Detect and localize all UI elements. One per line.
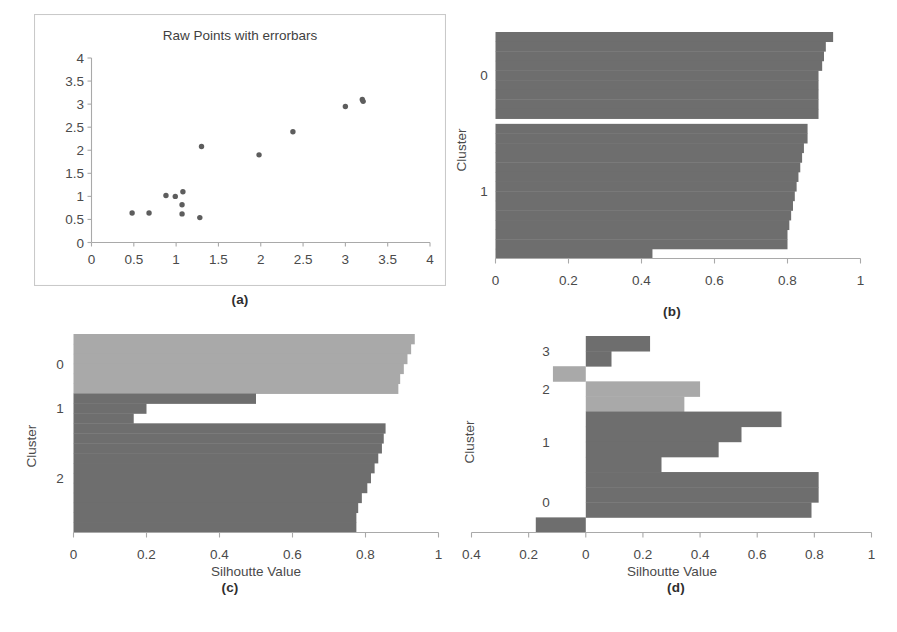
x-tick-label: 0.4 — [462, 547, 481, 562]
x-tick-label: 1 — [435, 547, 443, 562]
panel-c-xlabel: Silhoutte Value — [211, 564, 301, 579]
cluster-tick-label: 2 — [542, 382, 550, 397]
panel-a-y-tick-label: 1 — [76, 189, 84, 204]
cluster-tick-label: 1 — [480, 184, 488, 199]
silhouette-bar — [496, 162, 801, 172]
silhouette-bar — [496, 80, 819, 90]
panel-c-x-ticks: 00.20.40.60.81 — [70, 533, 443, 562]
scatter-point — [343, 104, 348, 109]
scatter-point — [197, 215, 202, 220]
x-tick-label: 0.8 — [778, 273, 797, 287]
scatter-point — [179, 211, 184, 216]
silhouette-bar — [74, 394, 257, 404]
cluster-tick-label: 1 — [56, 401, 64, 416]
silhouette-bar — [74, 334, 415, 344]
scatter-point — [256, 152, 261, 157]
silhouette-bar — [496, 133, 808, 143]
panel-b-cluster-ticks: 01 — [480, 68, 488, 199]
silhouette-bar — [74, 413, 134, 423]
silhouette-bar — [496, 99, 819, 109]
scatter-point — [129, 210, 134, 215]
silhouette-bar — [496, 32, 834, 42]
cluster-tick-label: 0 — [56, 357, 64, 372]
panel-a-caption-text: (a) — [231, 292, 248, 307]
silhouette-bar — [74, 423, 386, 433]
scatter-point — [173, 194, 178, 199]
panel-d-bars — [536, 336, 819, 533]
panel-a-title: Raw Points with errorbars — [163, 28, 318, 43]
panel-d-xlabel: Silhoutte Value — [627, 564, 717, 579]
silhouette-bar — [586, 502, 812, 518]
silhouette-bar — [496, 61, 823, 71]
panel-a-y-tick-label: 2 — [76, 143, 84, 158]
silhouette-bar — [586, 442, 719, 458]
silhouette-bar — [74, 453, 379, 463]
silhouette-bar — [496, 70, 819, 80]
x-tick-label: 0.2 — [519, 547, 538, 562]
panel-a-x-tick-label: 3 — [342, 252, 350, 267]
figure-container: Raw Points with errorbars 00.511.522.533… — [0, 0, 897, 632]
panel-a-scatter: Raw Points with errorbars 00.511.522.533… — [34, 14, 446, 314]
silhouette-bar — [496, 109, 819, 119]
silhouette-bar — [536, 517, 586, 533]
x-tick-label: 0 — [492, 273, 500, 287]
panel-c-bars — [74, 334, 415, 533]
x-tick-label: 1 — [857, 273, 865, 287]
panel-d-caption: (d) — [460, 580, 892, 595]
panel-a-x-tick-label: 2.5 — [294, 252, 313, 267]
panel-d-cluster-ticks: 3210 — [542, 344, 550, 510]
silhouette-bar — [74, 384, 399, 394]
panel-a-x-tick-label: 3.5 — [378, 252, 397, 267]
panel-a-x-tick-label: 4 — [426, 252, 434, 267]
x-tick-label: 0.8 — [805, 547, 824, 562]
panel-a-x-ticks: 00.511.522.533.54 — [88, 243, 435, 267]
silhouette-bar — [496, 42, 826, 52]
silhouette-bar — [586, 487, 819, 503]
panel-c-cluster-ticks: 012 — [56, 357, 64, 486]
cluster-tick-label: 1 — [542, 435, 550, 450]
scatter-point — [179, 202, 184, 207]
silhouette-bar — [586, 396, 685, 412]
x-tick-label: 1 — [868, 547, 876, 562]
silhouette-bar — [74, 493, 362, 503]
x-tick-label: 0.4 — [632, 273, 651, 287]
silhouette-bar — [74, 443, 382, 453]
panel-d-ylabel: Cluster — [462, 420, 477, 463]
silhouette-bar — [586, 472, 819, 488]
panel-b-silhouette: 00.20.40.60.81 01 Silhoutte Value Cluste… — [452, 14, 892, 314]
cluster-tick-label: 0 — [480, 68, 488, 83]
silhouette-bar — [586, 457, 662, 473]
silhouette-bar — [74, 403, 147, 413]
x-tick-label: 0 — [582, 547, 590, 562]
panel-c-svg: 00.20.40.60.81 012 Silhoutte Value Clust… — [10, 322, 450, 594]
panel-a-y-tick-label: 4 — [76, 51, 84, 66]
panel-a-y-tick-label: 1.5 — [65, 166, 84, 181]
silhouette-bar — [74, 374, 401, 384]
panel-b-ylabel: Cluster — [454, 128, 469, 171]
silhouette-bar — [586, 412, 782, 428]
silhouette-bar — [496, 220, 790, 230]
panel-a-x-tick-label: 0.5 — [124, 252, 143, 267]
panel-a-caption: (a) — [34, 292, 446, 307]
silhouette-bar — [74, 433, 384, 443]
panel-d-svg: 0.40.200.20.40.60.81 3210 Silhoutte Valu… — [460, 322, 892, 594]
x-tick-label: 0.2 — [559, 273, 578, 287]
x-tick-label: 0.2 — [634, 547, 653, 562]
panel-c-caption-text: (c) — [221, 580, 238, 595]
panel-a-x-tick-label: 0 — [88, 252, 96, 267]
silhouette-bar — [586, 381, 700, 397]
panel-a-x-tick-label: 1.5 — [209, 252, 228, 267]
silhouette-bar — [496, 51, 825, 61]
silhouette-bar — [74, 354, 408, 364]
x-tick-label: 0.4 — [691, 547, 710, 562]
panel-a-points — [129, 97, 365, 220]
silhouette-bar — [496, 191, 795, 201]
panel-c-caption: (c) — [10, 580, 450, 595]
silhouette-bar — [586, 336, 650, 352]
panel-b-svg: 00.20.40.60.81 01 Silhoutte Value Cluste… — [452, 14, 892, 286]
x-tick-label: 0 — [70, 547, 78, 562]
cluster-tick-label: 3 — [542, 344, 550, 359]
scatter-point — [146, 210, 151, 215]
silhouette-bar — [74, 473, 371, 483]
panel-b-bars — [496, 32, 834, 259]
